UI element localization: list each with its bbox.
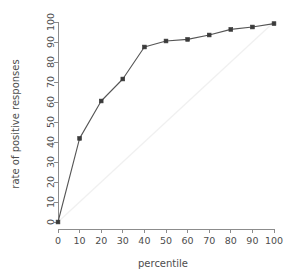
- data-point-marker: [164, 39, 168, 43]
- y-tick-label: 90: [45, 36, 56, 48]
- data-point-marker: [56, 220, 60, 224]
- y-tick-label: 30: [45, 156, 56, 168]
- x-tick-label: 10: [74, 235, 86, 246]
- y-tick-label: 0: [45, 219, 56, 225]
- reference-diagonal-line: [58, 22, 274, 222]
- x-tick-label: 30: [117, 235, 129, 246]
- y-tick-label: 100: [45, 13, 56, 31]
- x-tick-label: 100: [265, 235, 283, 246]
- x-tick-label: 80: [225, 235, 237, 246]
- data-point-marker: [207, 33, 211, 37]
- x-tick-label: 20: [95, 235, 107, 246]
- x-tick-label: 90: [246, 235, 258, 246]
- chart-container: 0102030405060708090100010203040506070809…: [0, 0, 292, 277]
- data-point-marker: [99, 99, 103, 103]
- x-tick-label: 40: [138, 235, 150, 246]
- data-point-marker: [251, 25, 255, 29]
- x-tick-label: 0: [55, 235, 61, 246]
- y-tick-label: 20: [45, 176, 56, 188]
- y-tick-label: 60: [45, 96, 56, 108]
- data-point-marker: [121, 77, 125, 81]
- data-point-marker: [78, 137, 82, 141]
- x-tick-label: 70: [203, 235, 215, 246]
- y-tick-label: 10: [45, 196, 56, 208]
- x-tick-label: 50: [160, 235, 172, 246]
- data-point-marker: [229, 28, 233, 32]
- line-chart-plot: 0102030405060708090100010203040506070809…: [0, 0, 292, 277]
- y-tick-label: 40: [45, 136, 56, 148]
- y-tick-label: 50: [45, 116, 56, 128]
- data-point-marker: [272, 22, 276, 26]
- y-tick-label: 80: [45, 56, 56, 68]
- y-tick-label: 70: [45, 76, 56, 88]
- data-point-marker: [186, 38, 190, 42]
- x-tick-label: 60: [182, 235, 194, 246]
- data-point-marker: [143, 45, 147, 49]
